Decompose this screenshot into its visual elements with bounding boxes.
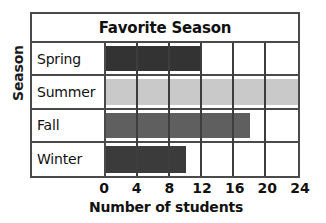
- x-tick-8: 8: [154, 180, 184, 196]
- chart-plot-body: Spring Summer Fall: [32, 43, 298, 176]
- row-plot-cell-summer: [106, 76, 298, 107]
- row-label-fall: Fall: [32, 117, 59, 133]
- x-tick-4: 4: [122, 180, 152, 196]
- x-axis-label: Number of students: [30, 199, 302, 215]
- x-tick-24: 24: [285, 180, 315, 196]
- bar-chart: Season Favorite Season Spring Summer: [0, 0, 326, 223]
- row-label-cell-winter: Winter: [32, 143, 106, 176]
- x-tick-16: 16: [220, 180, 250, 196]
- x-axis-tick-labels: 04812162024: [30, 180, 300, 198]
- row-label-cell-spring: Spring: [32, 43, 106, 74]
- row-label-winter: Winter: [32, 151, 82, 167]
- bar-summer: [106, 79, 298, 104]
- row-label-spring: Spring: [32, 51, 81, 67]
- x-tick-0: 0: [89, 180, 119, 196]
- x-tick-12: 12: [187, 180, 217, 196]
- table-row: Fall: [32, 110, 298, 143]
- row-plot-cell-winter: [106, 143, 298, 176]
- bar-fall: [106, 113, 250, 138]
- y-axis-label: Season: [7, 33, 29, 113]
- bar-winter: [106, 146, 186, 173]
- table-row: Summer: [32, 76, 298, 109]
- bar-spring: [106, 46, 202, 71]
- chart-title-row: Favorite Season: [32, 14, 298, 43]
- table-row: Winter: [32, 143, 298, 176]
- row-plot-cell-fall: [106, 110, 298, 141]
- row-plot-cell-spring: [106, 43, 298, 74]
- chart-title: Favorite Season: [99, 19, 232, 37]
- row-label-cell-fall: Fall: [32, 110, 106, 141]
- row-label-summer: Summer: [32, 84, 95, 100]
- x-tick-20: 20: [252, 180, 282, 196]
- chart-plot-frame: Favorite Season Spring Summer: [30, 12, 300, 178]
- table-row: Spring: [32, 43, 298, 76]
- row-label-cell-summer: Summer: [32, 76, 106, 107]
